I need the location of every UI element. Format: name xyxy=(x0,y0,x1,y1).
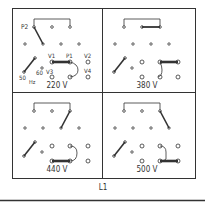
top-bracket xyxy=(34,103,70,110)
diagram-frame xyxy=(0,9,205,201)
p2-link xyxy=(34,27,43,44)
panel-440: 440 V xyxy=(23,103,90,174)
label-p2: P2 xyxy=(21,23,29,31)
label-p1: P1 xyxy=(66,52,73,59)
terminal xyxy=(168,43,170,45)
connection-diagram: L1 220 VP2V1P1V2V3V45060Hz380 V440 V500 … xyxy=(0,0,205,205)
top-bracket xyxy=(34,19,70,26)
label-v3: V3 xyxy=(46,68,53,75)
terminal xyxy=(140,159,144,163)
terminal xyxy=(123,26,126,29)
terminal xyxy=(131,67,133,69)
terminal xyxy=(131,151,133,153)
panel-380: 380 V xyxy=(113,19,180,90)
terminal xyxy=(24,43,26,45)
voltage-label: 500 V xyxy=(137,165,158,174)
bottom-label: L1 xyxy=(99,183,108,192)
panel-220: 220 VP2V1P1V2V3V45060Hz xyxy=(19,19,92,90)
label-hz: Hz xyxy=(29,79,36,85)
jumper xyxy=(70,146,77,161)
terminal xyxy=(69,26,72,29)
terminal xyxy=(114,127,116,129)
terminal xyxy=(176,144,180,148)
label-v4: V4 xyxy=(84,67,92,74)
terminal xyxy=(42,127,44,129)
terminal xyxy=(41,151,43,153)
terminal xyxy=(86,144,90,148)
terminal xyxy=(114,43,116,45)
label-v1: V1 xyxy=(48,52,55,59)
terminal xyxy=(86,159,90,163)
terminal xyxy=(51,26,54,29)
terminal xyxy=(86,60,90,64)
terminal xyxy=(78,127,80,129)
terminal xyxy=(50,75,54,79)
label-60: 60 xyxy=(36,69,43,76)
hz-link xyxy=(114,58,125,72)
top-bracket xyxy=(124,103,160,110)
terminal xyxy=(140,144,144,148)
terminal xyxy=(140,75,144,79)
terminal xyxy=(150,127,152,129)
hz-link xyxy=(114,142,125,156)
terminal xyxy=(132,127,134,129)
voltage-label: 380 V xyxy=(137,81,158,90)
jumper xyxy=(70,62,78,77)
terminal xyxy=(24,127,26,129)
jumper xyxy=(160,146,166,161)
terminal xyxy=(141,110,144,113)
panel-500: 500 V xyxy=(113,103,180,174)
terminal xyxy=(86,75,90,79)
terminal xyxy=(60,43,62,45)
terminal xyxy=(78,43,80,45)
terminal xyxy=(140,60,144,64)
terminal xyxy=(50,144,54,148)
hz-link xyxy=(24,142,35,156)
label-v2: V2 xyxy=(84,52,91,59)
voltage-label: 220 V xyxy=(47,81,68,90)
p-link xyxy=(160,111,169,128)
terminal xyxy=(132,43,134,45)
outer-border xyxy=(13,9,196,179)
label-50: 50 xyxy=(19,74,26,81)
terminal xyxy=(176,75,180,79)
top-bracket xyxy=(124,19,160,26)
hz-link xyxy=(24,58,35,72)
terminal xyxy=(123,110,126,113)
voltage-label: 440 V xyxy=(47,165,68,174)
terminal xyxy=(150,43,152,45)
p-link xyxy=(61,111,70,128)
terminal xyxy=(33,110,36,113)
terminal xyxy=(51,110,54,113)
